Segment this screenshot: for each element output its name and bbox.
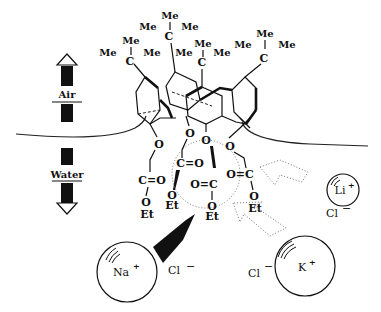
lithium-ion: Li + Cl − — [260, 160, 359, 220]
up-arrow-shaft — [61, 66, 73, 86]
svg-text:Me: Me — [175, 47, 192, 58]
svg-text:−: − — [342, 202, 351, 215]
lithium-symbol: Li — [335, 184, 346, 197]
svg-text:O: O — [154, 138, 164, 151]
tbutyl-1: Me Me Me C — [99, 35, 160, 77]
svg-text:O: O — [225, 140, 235, 153]
svg-text:−: − — [264, 260, 273, 273]
ester-arm-2: O C=O O Et — [165, 116, 204, 212]
calixarene-interface-diagram: Air Water Me Me Me C Me Me Me C Me Me Me… — [0, 0, 381, 312]
svg-text:O: O — [185, 127, 195, 140]
tbutyl-2: Me Me Me C — [139, 10, 198, 72]
ester-arm-1: O C=O O Et — [138, 124, 166, 221]
ester-arm-4: O O=C O Et — [225, 128, 262, 215]
svg-text:Me: Me — [143, 47, 160, 58]
svg-text:C: C — [126, 55, 135, 68]
sodium-counterion: Cl — [168, 264, 180, 277]
svg-text:Et: Et — [205, 210, 219, 223]
svg-text:Me: Me — [181, 21, 198, 32]
svg-text:Me: Me — [234, 39, 251, 50]
svg-text:Et: Et — [248, 202, 262, 215]
svg-text:Me: Me — [139, 21, 156, 32]
lithium-counterion: Cl — [326, 207, 338, 220]
svg-text:C: C — [198, 56, 207, 69]
sodium-symbol: Na — [113, 266, 130, 279]
solid-arrow-icon — [153, 214, 195, 263]
potassium-ion: K + Cl − — [233, 202, 335, 296]
svg-text:C: C — [260, 52, 269, 65]
svg-text:Me: Me — [194, 38, 211, 49]
potassium-counterion: Cl — [248, 267, 260, 280]
svg-text:C: C — [165, 30, 174, 43]
svg-text:Me: Me — [213, 47, 230, 58]
svg-text:Me: Me — [256, 28, 273, 39]
svg-text:Me: Me — [122, 35, 139, 46]
potassium-symbol: K — [298, 261, 307, 274]
svg-text:Et: Et — [140, 208, 154, 221]
down-arrow-head-icon — [57, 203, 77, 214]
tbutyl-4: Me Me Me C — [234, 28, 295, 77]
calixarene-core — [136, 72, 256, 128]
water-bar — [61, 148, 73, 165]
svg-text:O=C: O=C — [190, 178, 218, 191]
svg-text:Me: Me — [161, 10, 178, 21]
dotted-arrow-li-icon — [260, 160, 308, 185]
svg-text:C=O: C=O — [138, 174, 166, 187]
air-label: Air — [58, 89, 77, 100]
sodium-ion: Na + Cl − — [97, 214, 195, 302]
up-arrow-head-icon — [57, 54, 77, 65]
svg-text:Me: Me — [99, 47, 116, 58]
svg-text:+: + — [133, 261, 140, 271]
water-label: Water — [49, 169, 84, 180]
air-bar — [61, 104, 73, 122]
svg-text:−: − — [186, 260, 195, 273]
svg-text:Me: Me — [278, 39, 295, 50]
phase-arrows: Air Water — [49, 54, 84, 214]
down-arrow-shaft — [61, 183, 73, 203]
svg-text:+: + — [309, 257, 316, 267]
interface-line-left — [16, 116, 146, 137]
svg-text:C=O: C=O — [176, 157, 204, 170]
svg-text:+: + — [348, 180, 355, 190]
tbutyl-3: Me Me Me C — [175, 38, 230, 87]
svg-text:Et: Et — [165, 199, 179, 212]
interface-line-right — [242, 122, 368, 146]
